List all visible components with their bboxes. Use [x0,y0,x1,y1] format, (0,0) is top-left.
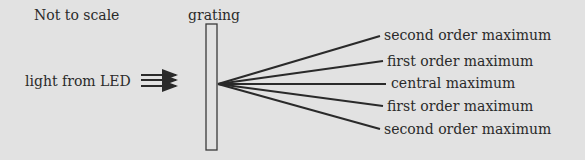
source-label: light from LED [25,73,131,89]
maximum-label-upper-1: first order maximum [387,53,533,69]
not-to-scale-note: Not to scale [34,7,119,23]
grating-rect [206,24,217,150]
maximum-label-lower-1: first order maximum [387,98,533,114]
maximum-label-lower-2: second order maximum [384,121,551,137]
grating-label: grating [188,7,240,23]
incident-arrows-icon [141,75,176,86]
diffracted-rays [218,36,386,129]
maximum-label-central: central maximum [391,75,515,91]
maximum-label-upper-2: second order maximum [384,27,551,43]
